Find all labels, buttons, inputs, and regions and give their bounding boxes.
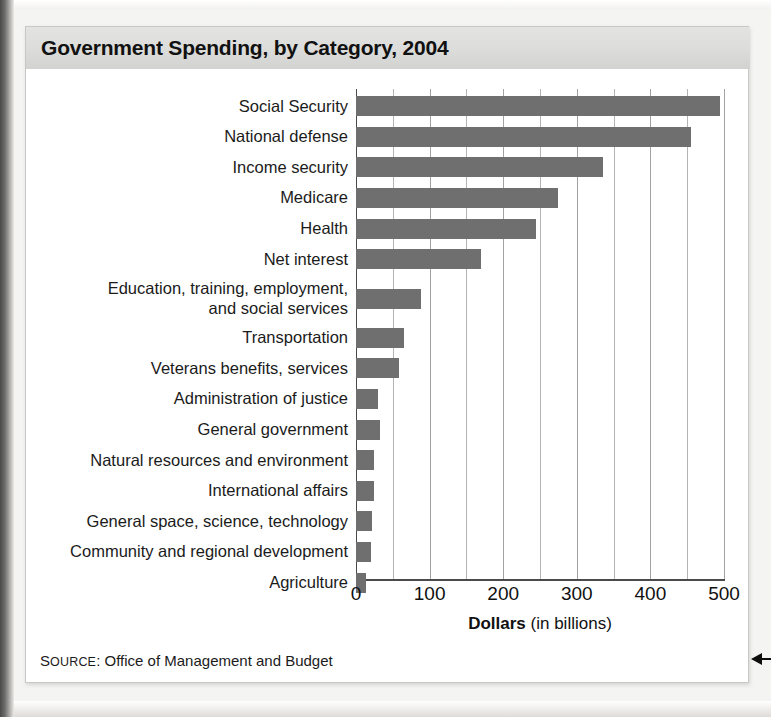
category-label: Veterans benefits, services	[26, 359, 356, 378]
bar	[356, 450, 374, 470]
figure-container: Government Spending, by Category, 2004 S…	[25, 26, 749, 683]
source-text: Office of Management and Budget	[105, 652, 333, 669]
bar-row: Education, training, employment, and soc…	[26, 275, 750, 323]
bar-cell	[356, 244, 750, 275]
bar-row: Community and regional development	[26, 537, 750, 568]
bar-row: Administration of justice	[26, 384, 750, 415]
category-label: Agriculture	[26, 573, 356, 592]
bar-cell	[356, 414, 750, 445]
bar	[356, 249, 481, 269]
category-label: General space, science, technology	[26, 512, 356, 531]
x-tick-label-500: 500	[708, 583, 740, 605]
x-axis-title-bold: Dollars	[468, 614, 526, 633]
bar-cell	[356, 152, 750, 183]
category-label: Administration of justice	[26, 389, 356, 408]
category-label: Net interest	[26, 250, 356, 269]
bar-cell	[356, 476, 750, 507]
source-label-s: S	[40, 652, 50, 669]
bar	[356, 157, 603, 177]
bar	[356, 96, 720, 116]
bar	[356, 289, 421, 309]
x-tick-label-200: 200	[487, 583, 519, 605]
figure-title: Government Spending, by Category, 2004	[41, 36, 448, 60]
category-label: National defense	[26, 127, 356, 146]
bar-cell	[356, 353, 750, 384]
page-bottom-edge	[14, 701, 771, 717]
x-tick-label-400: 400	[635, 583, 667, 605]
bar-row: Transportation	[26, 323, 750, 354]
category-label: Health	[26, 219, 356, 238]
bar-cell	[356, 122, 750, 153]
x-axis-title: Dollars (in billions)	[356, 614, 724, 634]
source-label-ource: OURCE	[50, 655, 96, 669]
bar	[356, 511, 372, 531]
category-label: Community and regional development	[26, 542, 356, 561]
bar-row: Net interest	[26, 244, 750, 275]
bar-row: Veterans benefits, services	[26, 353, 750, 384]
x-tick-label-100: 100	[414, 583, 446, 605]
figure-title-band: Government Spending, by Category, 2004	[26, 27, 750, 69]
category-label: Natural resources and environment	[26, 451, 356, 470]
bar	[356, 358, 399, 378]
bar	[356, 188, 558, 208]
bar	[356, 389, 378, 409]
bar	[356, 328, 404, 348]
bar-cell	[356, 537, 750, 568]
category-label: Education, training, employment, and soc…	[26, 279, 356, 318]
bar-cell	[356, 275, 750, 323]
chart-plot-area: Social SecurityNational defenseIncome se…	[26, 69, 750, 684]
bar	[356, 420, 380, 440]
category-label: Medicare	[26, 188, 356, 207]
bar	[356, 127, 691, 147]
bar-row: Income security	[26, 152, 750, 183]
bar-cell	[356, 506, 750, 537]
category-label: Transportation	[26, 328, 356, 347]
bar-row: General space, science, technology	[26, 506, 750, 537]
bar-row: International affairs	[26, 476, 750, 507]
bar-row: Social Security	[26, 91, 750, 122]
bar-row: Health	[26, 213, 750, 244]
bar-cell	[356, 91, 750, 122]
source-note: SOURCE: Office of Management and Budget	[40, 652, 333, 669]
bar-row: National defense	[26, 122, 750, 153]
x-tick-label-0: 0	[351, 583, 362, 605]
bar-cell	[356, 213, 750, 244]
page-canvas: Government Spending, by Category, 2004 S…	[0, 0, 771, 717]
bar-cell	[356, 183, 750, 214]
bar-cell	[356, 384, 750, 415]
bar-row: Medicare	[26, 183, 750, 214]
category-label: International affairs	[26, 481, 356, 500]
source-colon: :	[96, 652, 104, 669]
x-axis-title-units: (in billions)	[526, 614, 612, 633]
category-label: General government	[26, 420, 356, 439]
bar-cell	[356, 445, 750, 476]
bar-row: Natural resources and environment	[26, 445, 750, 476]
book-gutter-shadow	[0, 0, 14, 717]
bar	[356, 542, 371, 562]
x-tick-label-300: 300	[561, 583, 593, 605]
bar	[356, 481, 374, 501]
bar-rows: Social SecurityNational defenseIncome se…	[26, 91, 750, 598]
bar-cell	[356, 323, 750, 354]
category-label: Income security	[26, 158, 356, 177]
bar-row: General government	[26, 414, 750, 445]
bar	[356, 219, 536, 239]
x-axis-tick-labels: 0100200300400500	[356, 583, 724, 611]
page-edge-arrow-icon	[751, 653, 762, 665]
category-label: Social Security	[26, 97, 356, 116]
page-top-edge	[0, 0, 771, 10]
page-edge-arrow-tail-icon	[762, 658, 771, 660]
